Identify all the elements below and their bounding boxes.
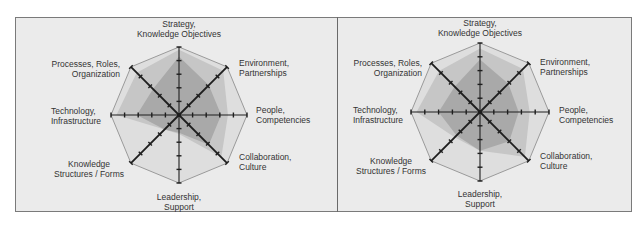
radar-chart-left: Strategy,Knowledge Objectives Environmen… <box>16 18 337 211</box>
axis-label-collaboration: Collaboration,Culture <box>540 151 592 171</box>
axis-label-collaboration: Collaboration,Culture <box>239 152 291 172</box>
axis-label-processes: Processes, Roles,Organization <box>354 58 423 78</box>
axis-label-knowledge-structures: KnowledgeStructures / Forms <box>356 156 426 176</box>
axis-label-strategy: Strategy,Knowledge Objectives <box>137 19 221 39</box>
axis-label-technology: Technology,Infrastructure <box>353 105 403 125</box>
axis-label-environment: Environment,Partnerships <box>239 58 289 78</box>
axis-label-people: People,Competencies <box>559 105 613 125</box>
axis-label-people: People,Competencies <box>256 105 310 125</box>
axis-label-knowledge-structures: KnowledgeStructures / Forms <box>54 159 124 179</box>
axis-label-leadership: Leadership,Support <box>458 189 502 209</box>
radar-center <box>478 110 482 114</box>
axis-label-environment: Environment,Partnerships <box>540 57 590 77</box>
radar-chart-right: Strategy,Knowledge Objectives Environmen… <box>338 18 631 211</box>
axis-label-leadership: Leadership,Support <box>157 192 201 212</box>
radar-center <box>177 113 181 117</box>
axis-label-processes: Processes, Roles,Organization <box>52 59 121 79</box>
axis-label-strategy: Strategy,Knowledge Objectives <box>438 18 522 38</box>
axis-label-technology: Technology,Infrastructure <box>51 106 101 126</box>
